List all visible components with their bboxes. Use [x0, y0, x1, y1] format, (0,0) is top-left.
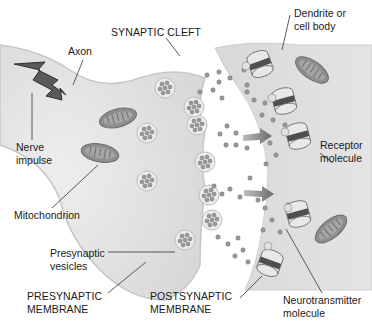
label-axon: Axon: [68, 45, 92, 58]
label-presynaptic-vesicles: Presynaptic vesicles: [50, 247, 105, 272]
label-presynaptic-membrane: PRESYNAPTIC MEMBRANE: [27, 290, 102, 315]
label-synaptic-cleft: SYNAPTIC CLEFT: [111, 26, 201, 39]
postsynaptic-cell: [215, 43, 372, 290]
label-nerve-impulse: Nerve impulse: [16, 141, 52, 166]
label-neurotransmitter-molecule: Neurotransmitter molecule: [283, 294, 361, 319]
label-mitochondrion: Mitochondrion: [14, 209, 80, 222]
label-postsynaptic-membrane: POSTSYNAPTIC MEMBRANE: [150, 290, 232, 315]
label-receptor-molecule: Receptor molecule: [320, 139, 363, 164]
synapse-diagram: SYNAPTIC CLEFT Axon Dendrite or cell bod…: [0, 0, 372, 325]
synapse-illustration: [0, 0, 372, 325]
label-dendrite: Dendrite or cell body: [294, 7, 346, 32]
